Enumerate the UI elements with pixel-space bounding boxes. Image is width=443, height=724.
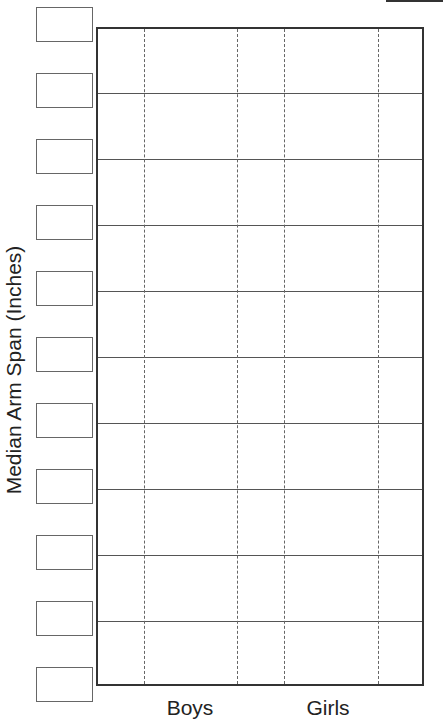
- boys-bar-right-guide: [237, 29, 238, 684]
- header-rule: [386, 0, 443, 2]
- y-tick-box[interactable]: [36, 139, 93, 174]
- boys-bar-left-guide: [144, 29, 145, 684]
- x-category-girls: Girls: [306, 696, 349, 720]
- plot-area: [96, 27, 424, 686]
- gridline: [98, 159, 422, 160]
- girls-bar-left-guide: [284, 29, 285, 684]
- gridline: [98, 555, 422, 556]
- gridline: [98, 489, 422, 490]
- gridline: [98, 621, 422, 622]
- gridline: [98, 291, 422, 292]
- y-axis-label: Median Arm Span (Inches): [2, 246, 26, 495]
- gridline: [98, 423, 422, 424]
- y-tick-box[interactable]: [36, 667, 93, 702]
- x-category-boys: Boys: [167, 696, 214, 720]
- gridline: [98, 357, 422, 358]
- y-tick-box[interactable]: [36, 469, 93, 504]
- y-tick-box[interactable]: [36, 205, 93, 240]
- y-tick-box[interactable]: [36, 7, 93, 42]
- y-tick-box[interactable]: [36, 403, 93, 438]
- girls-bar-right-guide: [378, 29, 379, 684]
- y-tick-box[interactable]: [36, 601, 93, 636]
- y-tick-box[interactable]: [36, 271, 93, 306]
- gridline: [98, 93, 422, 94]
- y-tick-box[interactable]: [36, 535, 93, 570]
- gridline: [98, 225, 422, 226]
- y-tick-box[interactable]: [36, 73, 93, 108]
- y-tick-box[interactable]: [36, 337, 93, 372]
